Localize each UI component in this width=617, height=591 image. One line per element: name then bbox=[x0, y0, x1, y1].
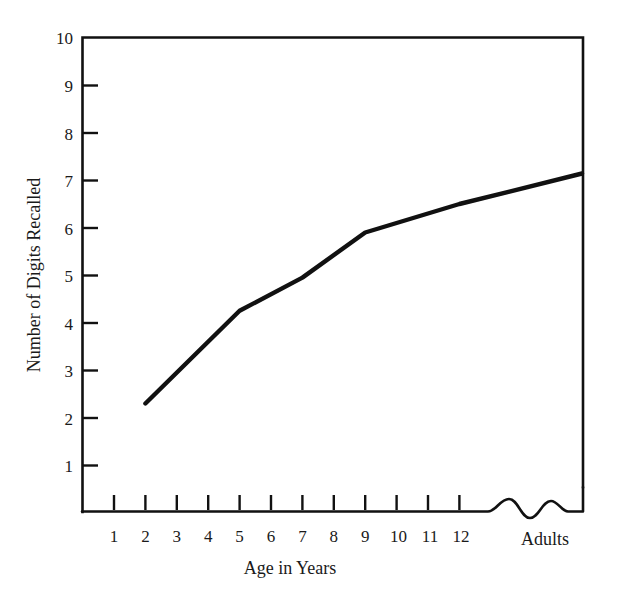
x-tick-label: 7 bbox=[298, 527, 307, 546]
x-tick-label: 6 bbox=[267, 527, 276, 546]
y-tick-label: 2 bbox=[65, 410, 74, 429]
x-axis-title: Age in Years bbox=[244, 558, 337, 578]
y-tick-label: 1 bbox=[65, 457, 74, 476]
x-tick-label: 12 bbox=[453, 527, 470, 546]
x-tick-label: 9 bbox=[361, 527, 370, 546]
y-tick-label: 6 bbox=[65, 220, 74, 239]
y-tick-label: 5 bbox=[65, 267, 74, 286]
y-tick-label: 4 bbox=[65, 315, 74, 334]
x-tick-label: 11 bbox=[422, 527, 438, 546]
y-tick-label: 3 bbox=[65, 362, 74, 381]
x-tick-label: 1 bbox=[110, 527, 119, 546]
x-tick-label: 8 bbox=[330, 527, 339, 546]
x-tick-label: 2 bbox=[141, 527, 150, 546]
digit-span-line-chart: 10 9 8 7 6 5 4 3 2 1 1 bbox=[0, 0, 617, 591]
y-tick-label: 7 bbox=[65, 172, 74, 191]
x-axis-adults-label: Adults bbox=[521, 529, 569, 549]
y-tick-label: 8 bbox=[65, 125, 74, 144]
x-tick-label: 5 bbox=[235, 527, 244, 546]
y-tick-label: 9 bbox=[65, 77, 74, 96]
x-tick-label: 3 bbox=[173, 527, 182, 546]
y-tick-label: 10 bbox=[56, 29, 73, 48]
chart-background bbox=[0, 0, 617, 591]
x-tick-label: 10 bbox=[390, 527, 407, 546]
x-tick-label: 4 bbox=[204, 527, 213, 546]
chart-canvas: 10 9 8 7 6 5 4 3 2 1 1 bbox=[0, 0, 617, 591]
y-axis-title: Number of Digits Recalled bbox=[24, 178, 44, 372]
